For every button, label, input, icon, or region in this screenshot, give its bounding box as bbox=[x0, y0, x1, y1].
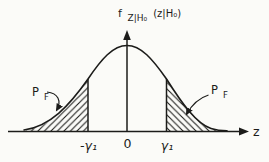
x-axis-label: z bbox=[253, 124, 260, 139]
pdf-function-label: f Z|H₀ (z|H₀) bbox=[118, 2, 181, 25]
tick-neg-threshold: -γ₁ bbox=[80, 138, 97, 153]
right-region-label-sub: F bbox=[223, 90, 228, 100]
left-region-label-sub: F bbox=[44, 92, 49, 102]
right-region-label-main: P bbox=[211, 83, 218, 97]
tick-origin: 0 bbox=[124, 136, 132, 151]
tick-pos-threshold: γ₁ bbox=[161, 138, 173, 153]
y-axis-arrow-icon bbox=[123, 30, 131, 40]
left-region-label-main: P bbox=[32, 85, 39, 99]
right-region-label: P F bbox=[211, 79, 228, 100]
pdf-false-alarm-figure: f Z|H₀ (z|H₀) P F P F -γ₁ 0 γ₁ z bbox=[0, 0, 269, 162]
pdf-label-subscript: Z|H₀ bbox=[127, 13, 147, 23]
x-axis-arrow-icon bbox=[239, 128, 249, 136]
pdf-label-function: f bbox=[118, 7, 123, 20]
pdf-label-argument: (z|H₀) bbox=[153, 8, 181, 20]
figure-canvas: f Z|H₀ (z|H₀) P F P F -γ₁ 0 γ₁ z bbox=[0, 0, 269, 162]
left-region-label: P F bbox=[32, 81, 49, 102]
